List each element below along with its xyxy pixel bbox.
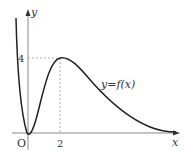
- tick-x-2: 2: [57, 138, 63, 149]
- function-graph: y x O 2 4 y=f(x): [0, 0, 186, 151]
- x-axis-label: x: [172, 136, 179, 149]
- curve-label: y=f(x): [100, 78, 135, 91]
- y-axis-label: y: [30, 6, 38, 19]
- y-axis-arrow-icon: [26, 9, 31, 16]
- origin-label: O: [17, 137, 26, 150]
- tick-y-4: 4: [18, 53, 24, 64]
- curve-f: [16, 18, 176, 134]
